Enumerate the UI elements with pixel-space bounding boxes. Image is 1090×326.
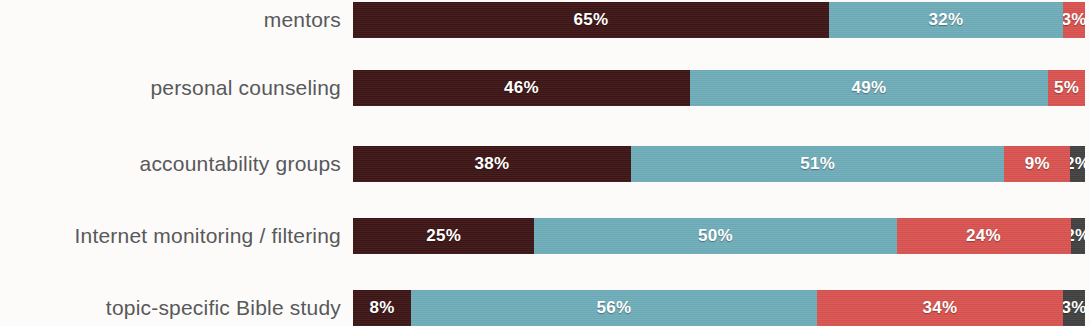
bar-segment: 25% — [353, 218, 534, 254]
bar-segment: 9% — [1004, 146, 1070, 182]
category-label: accountability groups — [0, 146, 353, 182]
segment-value-label: 25% — [426, 226, 461, 246]
segment-value-label: 3% — [1063, 10, 1085, 30]
bar-segment: 32% — [829, 2, 1063, 38]
category-label: topic-specific Bible study — [0, 290, 353, 326]
segment-value-label: 34% — [923, 298, 958, 318]
bar-segment: 2% — [1071, 218, 1085, 254]
category-label: personal counseling — [0, 70, 353, 106]
bar-segment: 2% — [1070, 146, 1085, 182]
chart-row: topic-specific Bible study8%56%34%3% — [0, 290, 1090, 326]
segment-value-label: 51% — [800, 154, 835, 174]
chart-row: Internet monitoring / filtering25%50%24%… — [0, 218, 1090, 254]
segment-value-label: 32% — [928, 10, 963, 30]
segment-value-label: 24% — [966, 226, 1001, 246]
category-label: mentors — [0, 2, 353, 38]
segment-value-label: 46% — [504, 78, 539, 98]
segment-value-label: 49% — [852, 78, 887, 98]
chart-row: accountability groups38%51%9%2% — [0, 146, 1090, 182]
segment-value-label: 9% — [1025, 154, 1050, 174]
bar-segment: 56% — [411, 290, 817, 326]
segment-value-label: 38% — [475, 154, 510, 174]
segment-value-label: 2% — [1071, 226, 1085, 246]
segment-value-label: 5% — [1054, 78, 1079, 98]
bar-segment: 50% — [534, 218, 896, 254]
stacked-bar: 25%50%24%2% — [353, 218, 1085, 254]
bar-segment: 3% — [1063, 2, 1085, 38]
segment-value-label: 3% — [1063, 298, 1085, 318]
bar-segment: 3% — [1063, 290, 1085, 326]
stacked-bar: 46%49%5% — [353, 70, 1085, 106]
bar-segment: 49% — [690, 70, 1049, 106]
bar-segment: 5% — [1048, 70, 1085, 106]
stacked-bar: 8%56%34%3% — [353, 290, 1085, 326]
stacked-bar: 65%32%3% — [353, 2, 1085, 38]
bar-segment: 8% — [353, 290, 411, 326]
segment-value-label: 8% — [369, 298, 394, 318]
bar-segment: 38% — [353, 146, 631, 182]
bar-segment: 34% — [817, 290, 1063, 326]
chart-row: personal counseling46%49%5% — [0, 70, 1090, 106]
stacked-bar: 38%51%9%2% — [353, 146, 1085, 182]
chart-row: mentors65%32%3% — [0, 2, 1090, 38]
bar-segment: 24% — [897, 218, 1071, 254]
category-label: Internet monitoring / filtering — [0, 218, 353, 254]
bar-segment: 65% — [353, 2, 829, 38]
segment-value-label: 65% — [573, 10, 608, 30]
segment-value-label: 50% — [698, 226, 733, 246]
bar-segment: 51% — [631, 146, 1004, 182]
segment-value-label: 56% — [596, 298, 631, 318]
segment-value-label: 2% — [1070, 154, 1085, 174]
bar-segment: 46% — [353, 70, 690, 106]
